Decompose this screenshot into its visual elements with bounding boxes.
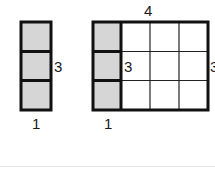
right-inner-label: 3 bbox=[124, 59, 132, 74]
right-side-label: 3 bbox=[210, 59, 215, 74]
right-bottom-label: 1 bbox=[104, 116, 112, 131]
right-rect-grid bbox=[0, 0, 215, 182]
divider-line bbox=[0, 166, 215, 167]
right-top-label: 4 bbox=[144, 3, 152, 18]
